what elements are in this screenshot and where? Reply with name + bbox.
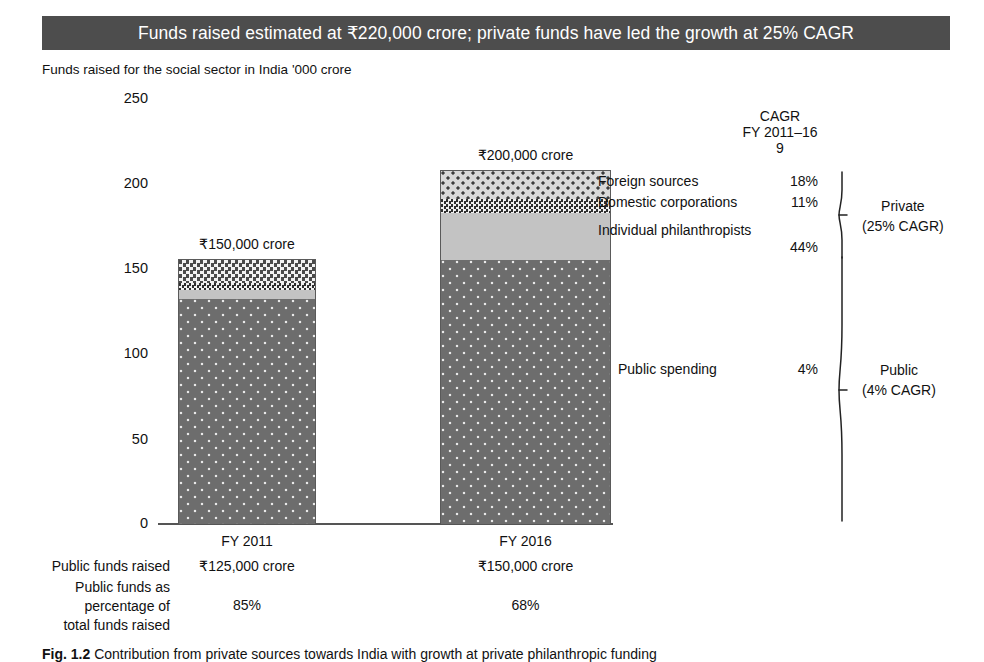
table-value-public-percentage-fy2011: 85% [178,597,316,613]
table-value-public-funds-raised-fy2016: ₹150,000 crore [440,558,611,574]
series-label-foreign: Foreign sources [598,173,698,189]
table-row-label-public-funds-raised: Public funds raised [10,558,170,574]
brace-private [838,170,864,260]
bar-segment-public-fy2016 [441,260,610,524]
y-axis-tick-0: 0 [88,515,148,531]
bar-segment-foreign-fy2011 [179,260,315,283]
cagr-header-line3: 9 [700,140,860,156]
bar-total-label-fy2016: ₹200,000 crore [440,147,611,163]
series-label-individual: Individual philanthropists [598,222,751,238]
bar-total-label-fy2011: ₹150,000 crore [178,236,316,252]
bar-fy2011 [178,259,316,523]
x-axis-category-fy2016: FY 2016 [440,533,611,549]
y-axis-tick-50: 50 [88,431,148,447]
brace-label-public-line1: Public [862,360,936,380]
y-axis-tick-200: 200 [88,175,148,191]
bar-segment-domestic-fy2016 [441,199,610,213]
cagr-value-individual: 44% [758,239,818,255]
brace-label-public-line2: (4% CAGR) [862,380,936,400]
cagr-value-domestic: 11% [758,194,818,210]
table-row-label-public-percentage-line1: Public funds as [10,578,170,597]
y-axis-tick-100: 100 [88,345,148,361]
bar-fy2016 [440,170,611,523]
brace-public [838,255,864,525]
brace-label-private-line2: (25% CAGR) [862,216,944,236]
figure-caption: Fig. 1.2 Contribution from private sourc… [42,646,942,662]
series-label-public: Public spending [618,361,717,377]
bar-segment-domestic-fy2011 [179,283,315,290]
bar-segment-foreign-fy2016 [441,171,610,199]
y-axis-tick-250: 250 [88,90,148,106]
bar-segment-public-fy2011 [179,299,315,524]
x-axis-category-fy2011: FY 2011 [178,533,316,549]
figure-caption-label: Fig. 1.2 [42,646,90,662]
table-row-label-public-percentage: Public funds as percentage of total fund… [10,578,170,635]
table-row-label-public-percentage-line2: percentage of [10,597,170,616]
bar-segment-individual-fy2016 [441,213,610,260]
y-axis-tick-150: 150 [88,260,148,276]
table-value-public-percentage-fy2016: 68% [440,597,611,613]
brace-label-public: Public (4% CAGR) [862,360,936,401]
cagr-header-line2: FY 2011–16 [700,124,860,140]
cagr-value-public: 4% [758,361,818,377]
brace-label-private: Private (25% CAGR) [862,196,944,237]
bar-segment-individual-fy2011 [179,290,315,299]
cagr-value-foreign: 18% [758,173,818,189]
table-value-public-funds-raised-fy2011: ₹125,000 crore [178,558,316,574]
figure-caption-text: Contribution from private sources toward… [94,646,657,662]
cagr-header-line1: CAGR [700,108,860,124]
series-label-domestic: Domestic corporations [598,194,737,210]
brace-label-private-line1: Private [862,196,944,216]
table-row-label-public-percentage-line3: total funds raised [10,616,170,635]
